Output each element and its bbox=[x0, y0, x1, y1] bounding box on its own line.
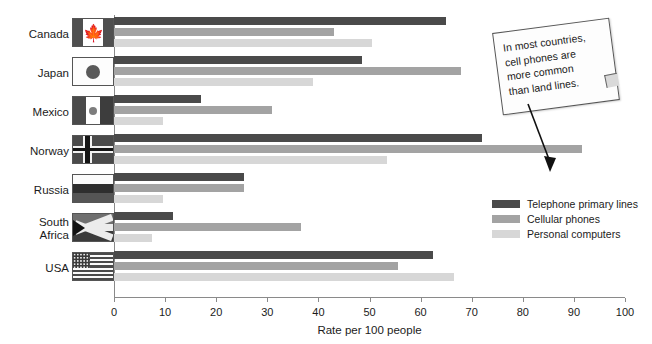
south-africa-flag bbox=[72, 213, 114, 242]
category-label-mexico: Mexico bbox=[5, 93, 69, 131]
south-africa-flag-horizontal-bar bbox=[88, 224, 113, 230]
russia-flag-stripe-middle bbox=[73, 184, 113, 193]
x-axis-tick bbox=[472, 298, 473, 302]
russia-flag-stripe-bottom bbox=[73, 193, 113, 202]
x-axis-tick bbox=[370, 298, 371, 302]
category-row-mexico: Mexico bbox=[0, 93, 114, 131]
category-row-south-africa: South Africa bbox=[0, 210, 114, 248]
x-axis-tick-label: 40 bbox=[312, 306, 324, 318]
bar bbox=[114, 17, 446, 25]
category-row-usa: USA bbox=[0, 249, 114, 287]
x-axis-tick-label: 50 bbox=[363, 306, 375, 318]
usa-flag-stars bbox=[73, 253, 90, 268]
x-axis-tick-label: 0 bbox=[111, 306, 117, 318]
usa-flag bbox=[72, 252, 114, 281]
category-row-canada: Canada 🍁 bbox=[0, 15, 114, 53]
canada-flag-right-band bbox=[103, 19, 113, 46]
x-axis-tick bbox=[625, 298, 626, 302]
x-axis-tick-label: 30 bbox=[261, 306, 273, 318]
x-axis-tick bbox=[216, 298, 217, 302]
mexico-flag bbox=[72, 96, 114, 125]
mexico-flag-emblem bbox=[89, 107, 97, 115]
x-axis-tick bbox=[421, 298, 422, 302]
mexico-flag-left-band bbox=[73, 97, 86, 124]
x-axis-tick-label: 80 bbox=[517, 306, 529, 318]
legend-swatch-telephone-primary-lines bbox=[492, 200, 520, 208]
legend-label-personal-computers: Personal computers bbox=[527, 228, 620, 240]
legend-swatch-personal-computers bbox=[492, 230, 520, 238]
legend-item-telephone-primary-lines[interactable]: Telephone primary lines bbox=[492, 197, 652, 210]
x-axis-title: Rate per 100 people bbox=[114, 324, 625, 336]
russia-flag-stripe-top bbox=[73, 175, 113, 184]
category-label-usa: USA bbox=[5, 249, 69, 287]
bar bbox=[114, 117, 163, 125]
russia-flag bbox=[72, 174, 114, 203]
maple-leaf-icon: 🍁 bbox=[83, 24, 104, 41]
x-axis-tick-label: 20 bbox=[210, 306, 222, 318]
bar bbox=[114, 212, 173, 220]
usa-flag-stripe bbox=[73, 278, 113, 280]
x-axis-tick bbox=[574, 298, 575, 302]
annotation-callout: In most countries, cell phones are more … bbox=[492, 18, 620, 116]
category-label-norway: Norway bbox=[5, 132, 69, 170]
x-axis-tick-label: 10 bbox=[159, 306, 171, 318]
legend-label-cellular-phones: Cellular phones bbox=[527, 213, 600, 225]
x-axis-tick-label: 90 bbox=[568, 306, 580, 318]
bar bbox=[114, 145, 582, 153]
norway-flag bbox=[72, 135, 114, 164]
legend-item-personal-computers[interactable]: Personal computers bbox=[492, 227, 652, 240]
category-label-south-africa: South Africa bbox=[5, 210, 69, 248]
bar bbox=[114, 95, 201, 103]
x-axis-tick-label: 100 bbox=[616, 306, 634, 318]
x-axis-tick bbox=[318, 298, 319, 302]
category-row-norway: Norway bbox=[0, 132, 114, 170]
legend-swatch-cellular-phones bbox=[492, 215, 520, 223]
bar bbox=[114, 173, 244, 181]
bar bbox=[114, 234, 152, 242]
x-axis-tick bbox=[523, 298, 524, 302]
bar bbox=[114, 156, 387, 164]
legend: Telephone primary lines Cellular phones … bbox=[492, 197, 652, 242]
legend-label-telephone-primary-lines: Telephone primary lines bbox=[527, 198, 638, 210]
bar bbox=[114, 56, 362, 64]
usa-flag-canton bbox=[73, 253, 90, 268]
x-axis-tick-label: 70 bbox=[466, 306, 478, 318]
bar bbox=[114, 134, 482, 142]
bar bbox=[114, 28, 334, 36]
bar-chart: Canada 🍁 Japan Mexico Norway Russia bbox=[0, 0, 652, 344]
norway-flag-inner-cross-vertical bbox=[85, 136, 89, 163]
bar bbox=[114, 184, 244, 192]
category-label-japan: Japan bbox=[5, 54, 69, 92]
bar bbox=[114, 78, 313, 86]
bar bbox=[114, 67, 461, 75]
usa-flag-stripe bbox=[73, 274, 113, 276]
bar bbox=[114, 195, 163, 203]
japan-flag-disc bbox=[86, 65, 100, 79]
category-label-russia: Russia bbox=[5, 171, 69, 209]
category-label-canada: Canada bbox=[5, 15, 69, 53]
bar bbox=[114, 251, 433, 259]
x-axis-tick bbox=[114, 298, 115, 302]
x-axis-tick-label: 60 bbox=[414, 306, 426, 318]
bar bbox=[114, 223, 301, 231]
bar bbox=[114, 106, 272, 114]
bar bbox=[114, 273, 454, 281]
bar bbox=[114, 262, 398, 270]
norway-flag-inner-cross-horizontal bbox=[73, 148, 113, 151]
x-axis-tick bbox=[267, 298, 268, 302]
mexico-flag-right-band bbox=[100, 97, 113, 124]
japan-flag bbox=[72, 57, 114, 86]
category-row-japan: Japan bbox=[0, 54, 114, 92]
bar bbox=[114, 39, 372, 47]
category-row-russia: Russia bbox=[0, 171, 114, 209]
x-axis-tick bbox=[165, 298, 166, 302]
usa-flag-stripe bbox=[73, 270, 113, 272]
legend-item-cellular-phones[interactable]: Cellular phones bbox=[492, 212, 652, 225]
canada-flag: 🍁 bbox=[72, 18, 114, 47]
south-africa-flag-triangle bbox=[73, 220, 85, 236]
